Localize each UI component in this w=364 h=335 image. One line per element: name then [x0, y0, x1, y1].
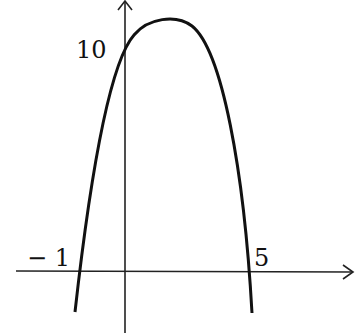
x-right-root-label: 5 [254, 246, 269, 270]
x-left-root-label: − 1 [27, 246, 70, 270]
y-intercept-label: 10 [76, 38, 107, 62]
parabola-chart [0, 0, 364, 335]
